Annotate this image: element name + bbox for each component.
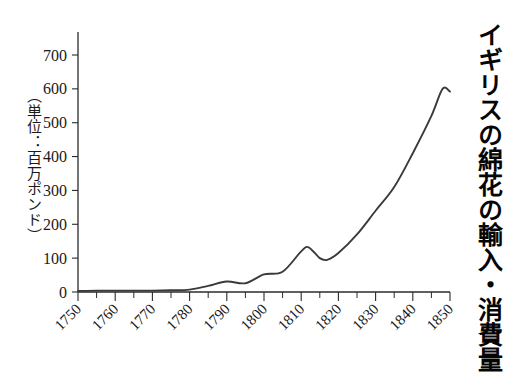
- y-axis-tick-label: 100: [43, 250, 67, 267]
- x-axis-tick-label: 1750: [52, 301, 85, 334]
- y-axis-tick-label: 500: [43, 114, 67, 131]
- y-axis-tick-label: 700: [43, 47, 67, 64]
- y-axis-tick-label: 600: [43, 80, 67, 97]
- x-axis-tick-label: 1800: [238, 301, 271, 334]
- y-axis-tick-label: 0: [59, 284, 67, 301]
- y-axis-unit-label: （単位：百万ポンド）: [14, 88, 40, 278]
- x-axis-tick-label: 1760: [89, 301, 122, 334]
- x-axis-tick-label: 1830: [349, 301, 382, 334]
- y-axis-tick-label: 400: [43, 148, 67, 165]
- y-axis: 0100200300400500600700: [43, 32, 78, 301]
- x-axis-tick-label: 1850: [424, 301, 457, 334]
- plot-area: 0100200300400500600700 17501760177017801…: [0, 0, 507, 387]
- x-axis-tick-label: 1840: [386, 301, 419, 334]
- x-axis-tick-label: 1780: [163, 301, 196, 334]
- x-axis: 1750176017701780179018001810182018301840…: [52, 292, 457, 333]
- x-axis-tick-label: 1790: [200, 301, 233, 334]
- x-axis-tick-label: 1770: [126, 301, 159, 334]
- data-series: [78, 88, 450, 291]
- chart-figure: （単位：百万ポンド） イギリスの綿花の輸入・消費量 01002003004005…: [0, 0, 507, 387]
- x-axis-tick-label: 1810: [275, 301, 308, 334]
- chart-title: イギリスの綿花の輸入・消費量: [467, 22, 501, 322]
- x-axis-tick-label: 1820: [312, 301, 345, 334]
- y-axis-tick-label: 200: [43, 216, 67, 233]
- series-line: [78, 88, 450, 291]
- y-axis-tick-label: 300: [43, 182, 67, 199]
